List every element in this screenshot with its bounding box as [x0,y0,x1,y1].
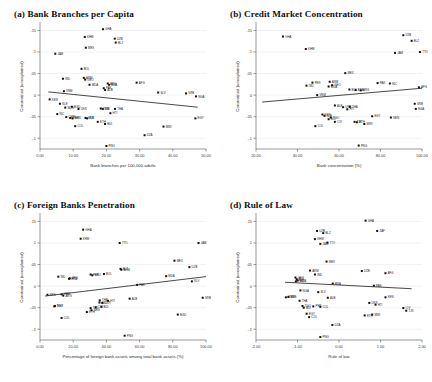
svg-text:1.00: 1.00 [377,344,385,349]
svg-text:.1: .1 [33,240,36,245]
svg-text:80.00: 80.00 [376,153,387,158]
svg-text:COL: COL [64,316,70,320]
svg-text:TGO: TGO [56,304,63,308]
svg-text:.15: .15 [31,28,36,33]
svg-text:JAM: JAM [201,241,207,245]
svg-text:Bank concentration (%): Bank concentration (%) [317,163,362,168]
chart-panel-b: (b) Credit Market Concentration .15.1.05… [216,0,432,183]
svg-text:HTI: HTI [350,107,355,111]
svg-text:100.00: 100.00 [416,153,429,158]
svg-text:KHM: KHM [317,237,324,241]
svg-text:JAM: JAM [57,52,63,56]
svg-text:30.00: 30.00 [135,153,146,158]
svg-text:10.00: 10.00 [68,153,79,158]
svg-text:-.1: -.1 [247,327,252,332]
svg-text:20.00: 20.00 [68,344,79,349]
svg-text:HTI: HTI [113,111,118,115]
svg-text:PER: PER [93,273,99,277]
svg-text:BLZ: BLZ [123,267,129,271]
svg-text:MEX: MEX [88,46,94,50]
svg-text:HTI: HTI [378,303,383,307]
svg-text:GEO: GEO [87,78,94,82]
panel-a-plot: .15.1.050-.05-.10.0010.0020.0030.0040.00… [0,0,216,183]
svg-text:SLV: SLV [160,91,165,95]
svg-text:DZA: DZA [335,323,341,327]
svg-text:UKR: UKR [81,107,87,111]
panel-d-plot: .15.1.050-.05-.1-2.00-1.000.001.002.00Ru… [216,191,432,374]
svg-text:GHA: GHA [368,219,374,223]
svg-text:BLZ: BLZ [325,231,331,235]
svg-text:COL: COL [323,305,329,309]
svg-text:GHA: GHA [285,35,291,39]
svg-text:NGA: NGA [303,289,309,293]
svg-text:TTO: TTO [330,241,336,245]
svg-text:KHM: KHM [308,47,315,51]
svg-text:-.05: -.05 [245,305,252,310]
svg-text:COL: COL [318,124,324,128]
svg-text:2.00: 2.00 [418,344,426,349]
svg-text:SLV: SLV [194,279,199,283]
svg-text:COL: COL [311,315,317,319]
svg-text:TTO: TTO [422,50,428,54]
svg-text:-.05: -.05 [245,114,252,119]
svg-text:GHA: GHA [85,228,91,232]
svg-text:TTO: TTO [122,241,128,245]
svg-text:.15: .15 [247,28,252,33]
svg-text:MDA: MDA [331,85,337,89]
svg-text:KHM: KHM [83,237,90,241]
svg-text:ETH: ETH [89,310,95,314]
svg-text:NGA: NGA [418,107,424,111]
svg-text:EGY: EGY [198,116,204,120]
svg-text:0.00: 0.00 [36,153,44,158]
svg-text:PNG: PNG [109,144,116,148]
svg-text:-.1: -.1 [31,136,36,141]
svg-text:KHM: KHM [87,35,94,39]
svg-text:20.00: 20.00 [251,153,262,158]
svg-text:BDI: BDI [306,306,311,310]
svg-text:BDI: BDI [104,305,109,309]
svg-text:.1: .1 [249,240,252,245]
svg-text:MWI: MWI [374,313,380,317]
svg-text:MWI: MWI [367,122,373,126]
svg-text:AFG: AFG [421,85,428,89]
svg-text:KEN: KEN [52,98,58,102]
chart-panel-d: (d) Rule of Law .15.1.050-.05-.1-2.00-1.… [216,191,432,374]
svg-text:IND: IND [60,275,65,279]
svg-text:80.00: 80.00 [168,344,179,349]
svg-text:AFG: AFG [139,81,146,85]
svg-text:BRA: BRA [111,83,117,87]
svg-text:UZB: UZB [192,265,198,269]
svg-text:THA: THA [117,107,123,111]
svg-text:MEX: MEX [347,71,353,75]
svg-text:GHA: GHA [105,27,111,31]
svg-text:PNG: PNG [361,144,368,148]
svg-text:.05: .05 [31,262,36,267]
svg-text:ZAF: ZAF [379,229,385,233]
svg-text:Rule of law: Rule of law [328,354,350,359]
svg-text:ARG: ARG [363,88,370,92]
chart-panel-a: (a) Bank Branches per Capita .15.1.050-.… [0,0,216,183]
svg-text:.05: .05 [247,71,252,76]
panel-b-plot: .15.1.050-.05-.120.0040.0060.0080.00100.… [216,0,432,183]
panel-c-plot: .15.1.050-.05-.10.0020.0040.0060.0080.00… [0,191,216,374]
svg-text:NIC: NIC [59,112,64,116]
svg-text:BEN: BEN [75,116,81,120]
svg-text:THA: THA [302,299,308,303]
svg-text:40.00: 40.00 [102,344,113,349]
svg-text:-1.00: -1.00 [293,344,303,349]
svg-text:0: 0 [250,284,253,289]
svg-text:BOL: BOL [84,67,90,71]
svg-text:.05: .05 [31,71,36,76]
svg-text:PNG: PNG [323,335,330,339]
chart-panel-c: (c) Foreign Banks Penetration .15.1.050-… [0,191,216,374]
svg-text:ALB: ALB [107,88,113,92]
svg-text:SRB: SRB [205,296,211,300]
svg-text:60.00: 60.00 [135,344,146,349]
svg-text:-.05: -.05 [29,305,36,310]
svg-text:Bank branches per 100,000 adul: Bank branches per 100,000 adults [90,163,155,168]
svg-text:0.00: 0.00 [335,344,343,349]
svg-text:SRB: SRB [291,295,297,299]
svg-text:UZB: UZB [406,33,412,37]
svg-text:SRB: SRB [417,102,423,106]
svg-text:-.1: -.1 [247,136,252,141]
